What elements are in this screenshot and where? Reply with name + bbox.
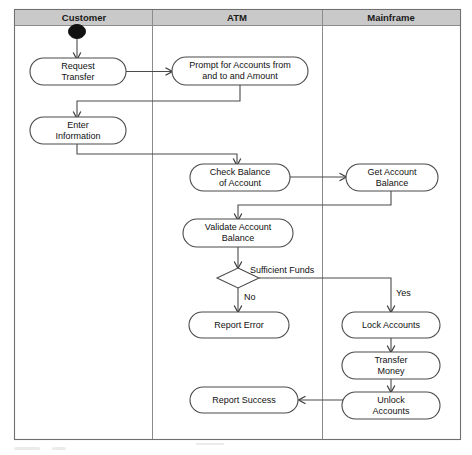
uml-activity-diagram: Customer ATM Mainframe [0, 0, 472, 455]
activity-get-account-balance-label-line2: Balance [376, 178, 409, 188]
scan-artifacts [14, 443, 224, 450]
edge-check-balance-to-get-account-balance [290, 173, 347, 181]
lane-header-atm: ATM [227, 12, 247, 23]
edge-validate-to-decision [234, 247, 242, 269]
edge-decision-no-to-report-error [234, 288, 242, 313]
activity-unlock-accounts-label-line1: Unlock [377, 395, 405, 405]
activity-check-balance-label-line1: Check Balance [210, 167, 271, 177]
activity-diagram-canvas: Customer ATM Mainframe [0, 0, 472, 455]
lane-header-mainframe: Mainframe [367, 12, 415, 23]
activity-enter-information-label-line2: Information [55, 131, 100, 141]
edge-transfer-money-to-unlock-accounts [387, 379, 395, 393]
edge-prompt-to-enter-information [73, 85, 240, 119]
edge-start-to-request-transfer [73, 39, 81, 60]
edge-label-no: No [244, 292, 256, 302]
decision-sufficient-funds[interactable]: Sufficient Funds [217, 265, 315, 288]
activity-enter-information-label-line1: Enter [67, 120, 89, 130]
activity-lock-accounts[interactable]: Lock Accounts [342, 312, 440, 338]
activity-check-balance[interactable]: Check Balance of Account [190, 164, 290, 191]
activity-transfer-money-label-line1: Transfer [374, 355, 407, 365]
activity-request-transfer[interactable]: Request Transfer [30, 58, 126, 85]
activity-prompt-for-accounts-label-line1: Prompt for Accounts from [189, 60, 291, 70]
activity-validate-account-balance-label-line1: Validate Account [205, 222, 272, 232]
activity-lock-accounts-label: Lock Accounts [362, 320, 421, 330]
edge-enter-information-to-check-balance [77, 144, 241, 166]
edge-lock-accounts-to-transfer-money [387, 338, 395, 353]
activity-request-transfer-label-line2: Transfer [61, 72, 94, 82]
activity-validate-account-balance[interactable]: Validate Account Balance [183, 219, 293, 247]
initial-node [69, 25, 86, 39]
edge-decision-yes-to-lock-accounts [259, 278, 395, 313]
activity-get-account-balance-label-line1: Get Account [367, 167, 417, 177]
activity-get-account-balance[interactable]: Get Account Balance [346, 164, 438, 191]
activity-validate-account-balance-label-line2: Balance [222, 233, 255, 243]
edge-label-yes: Yes [396, 288, 411, 298]
edge-request-transfer-to-prompt [126, 68, 173, 76]
activity-report-error-label: Report Error [214, 320, 264, 330]
decision-sufficient-funds-label: Sufficient Funds [250, 265, 315, 275]
activity-prompt-for-accounts-label-line2: and to and Amount [202, 71, 278, 81]
activity-report-success[interactable]: Report Success [190, 387, 298, 413]
activity-report-error[interactable]: Report Error [189, 312, 289, 338]
lane-header-customer: Customer [62, 12, 107, 23]
activity-report-success-label: Report Success [212, 395, 276, 405]
activity-transfer-money-label-line2: Money [377, 366, 405, 376]
activity-transfer-money[interactable]: Transfer Money [342, 352, 440, 379]
activity-request-transfer-label-line1: Request [61, 61, 95, 71]
activity-enter-information[interactable]: Enter Information [30, 117, 126, 144]
activity-unlock-accounts-label-line2: Accounts [372, 406, 410, 416]
activity-prompt-for-accounts[interactable]: Prompt for Accounts from and to and Amou… [172, 57, 308, 85]
activity-check-balance-label-line2: of Account [219, 178, 262, 188]
activity-unlock-accounts[interactable]: Unlock Accounts [342, 392, 440, 419]
edge-get-account-balance-to-validate [234, 191, 391, 221]
